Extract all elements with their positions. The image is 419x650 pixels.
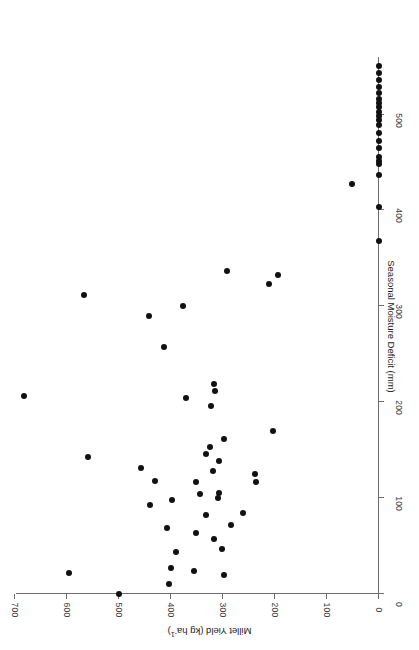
y-tick-mark bbox=[379, 497, 384, 498]
scatter-point bbox=[138, 465, 144, 471]
scatter-point bbox=[85, 454, 91, 460]
figure-rotated-180: 0100200300400500600700 0100200300400500 … bbox=[0, 0, 419, 650]
scatter-point bbox=[81, 292, 87, 298]
x-tick-label: 400 bbox=[166, 597, 176, 623]
scatter-point bbox=[152, 478, 158, 484]
scatter-point bbox=[376, 172, 382, 178]
x-tick-label: 0 bbox=[374, 597, 384, 623]
scatter-point bbox=[207, 444, 213, 450]
y-tick-mark bbox=[379, 305, 384, 306]
chart-canvas: 0100200300400500600700 0100200300400500 … bbox=[0, 0, 419, 650]
y-tick-label: 100 bbox=[394, 487, 404, 511]
y-tick-mark bbox=[379, 401, 384, 402]
scatter-point bbox=[349, 181, 355, 187]
scatter-point bbox=[66, 570, 72, 576]
scatter-point bbox=[169, 497, 175, 503]
scatter-point bbox=[376, 63, 382, 69]
y-tick-label: 0 bbox=[394, 583, 404, 607]
y-axis-title: Seasonal Moisture Deficit (mm) bbox=[386, 207, 397, 447]
scatter-plot-panel: 0100200300400500600700 0100200300400500 … bbox=[0, 0, 419, 650]
scatter-point bbox=[161, 344, 167, 350]
x-axis-title-superscript: -1 bbox=[171, 631, 177, 638]
x-axis-title: Millet Yield (kg ha-1) bbox=[0, 626, 419, 638]
scatter-point bbox=[228, 522, 234, 528]
scatter-point bbox=[147, 502, 153, 508]
scatter-point bbox=[275, 272, 281, 278]
scatter-point bbox=[193, 530, 199, 536]
scatter-point bbox=[210, 468, 216, 474]
scatter-point bbox=[216, 490, 222, 496]
scatter-point bbox=[212, 388, 218, 394]
scatter-point bbox=[197, 491, 203, 497]
scatter-point bbox=[211, 536, 217, 542]
scatter-point bbox=[376, 77, 382, 83]
scatter-point bbox=[253, 479, 259, 485]
scatter-point bbox=[164, 525, 170, 531]
scatter-point bbox=[376, 138, 382, 144]
scatter-point bbox=[116, 591, 122, 597]
x-axis-title-text: Millet Yield (kg ha bbox=[177, 626, 251, 637]
scatter-point bbox=[166, 581, 172, 587]
scatter-point bbox=[203, 512, 209, 518]
scatter-point bbox=[376, 130, 382, 136]
scatter-point bbox=[376, 145, 382, 151]
scatter-point bbox=[208, 403, 214, 409]
scatter-point bbox=[168, 565, 174, 571]
scatter-point bbox=[376, 90, 382, 96]
scatter-point bbox=[376, 84, 382, 90]
scatter-point bbox=[376, 70, 382, 76]
scatter-point bbox=[221, 572, 227, 578]
scatter-point bbox=[203, 451, 209, 457]
scatter-point bbox=[376, 204, 382, 210]
x-tick-label: 100 bbox=[322, 597, 332, 623]
scatter-point bbox=[146, 313, 152, 319]
scatter-point bbox=[376, 238, 382, 244]
scatter-point bbox=[376, 154, 382, 160]
scatter-point bbox=[219, 546, 225, 552]
y-tick-mark bbox=[379, 593, 384, 594]
scatter-point bbox=[211, 381, 217, 387]
scatter-point bbox=[224, 268, 230, 274]
scatter-point bbox=[266, 281, 272, 287]
scatter-point bbox=[270, 428, 276, 434]
scatter-point bbox=[191, 568, 197, 574]
y-tick-label: 500 bbox=[394, 104, 404, 128]
scatter-point bbox=[173, 549, 179, 555]
scatter-point bbox=[240, 510, 246, 516]
scatter-point bbox=[252, 471, 258, 477]
x-tick-label: 200 bbox=[270, 597, 280, 623]
x-tick-label: 300 bbox=[218, 597, 228, 623]
scatter-point bbox=[221, 436, 227, 442]
scatter-point bbox=[216, 458, 222, 464]
x-tick-label: 700 bbox=[10, 597, 20, 623]
scatter-point bbox=[193, 479, 199, 485]
scatter-point bbox=[183, 395, 189, 401]
scatter-point bbox=[180, 303, 186, 309]
scatter-point bbox=[21, 393, 27, 399]
x-tick-label: 600 bbox=[62, 597, 72, 623]
x-tick-label: 500 bbox=[114, 597, 124, 623]
x-axis-title-tail: ) bbox=[168, 626, 171, 637]
